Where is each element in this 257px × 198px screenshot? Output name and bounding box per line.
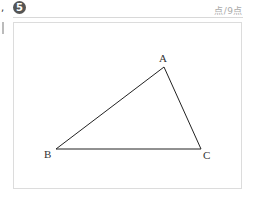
vertex-label-a: A [159,52,167,64]
vertex-label-b: B [44,148,51,160]
triangle-abc [56,67,201,149]
vertex-label-c: C [203,149,210,161]
triangle-figure: A B C [0,0,257,198]
